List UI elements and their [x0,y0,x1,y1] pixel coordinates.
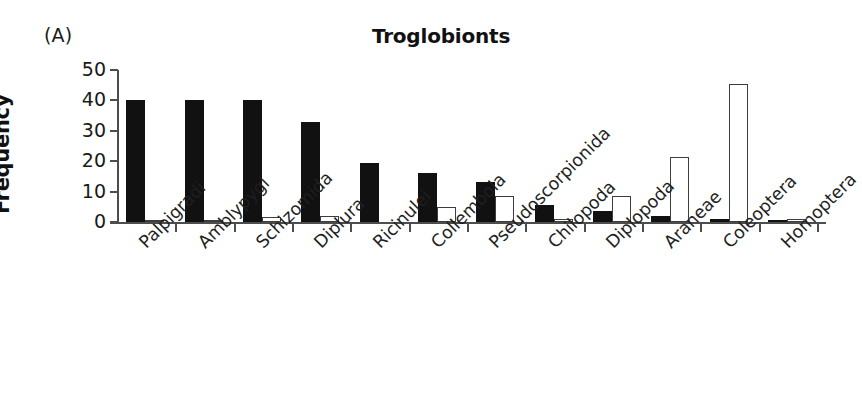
x-tick [234,224,236,232]
bar-group [243,70,281,222]
bar-group [768,70,806,222]
x-tick [759,224,761,232]
bar-filled [126,100,145,222]
bar-filled [418,173,437,222]
x-tick [292,224,294,232]
x-tick [700,224,702,232]
bar-filled [185,100,204,222]
bar-group [418,70,456,222]
bar-group [185,70,223,222]
bar-filled [301,122,320,222]
figure-panel-a: (A) Troglobionts Frequency 01020304050 P… [0,0,862,405]
bar-group [476,70,514,222]
bar-filled [593,211,612,222]
bar-open [495,196,514,222]
bar-filled [360,163,379,222]
bar-group [651,70,689,222]
x-tick [350,224,352,232]
bar-filled [768,220,787,222]
x-tick [409,224,411,232]
bar-open [145,220,164,222]
bar-group [301,70,339,222]
x-tick [642,224,644,232]
bar-filled [243,100,262,222]
bar-open [262,217,281,222]
bar-open [612,196,631,222]
x-tick [817,224,819,232]
bar-filled [476,182,495,222]
y-axis-title: Frequency [0,74,14,234]
y-tick [110,130,118,132]
y-tick [110,191,118,193]
x-tick [175,224,177,232]
y-tick [110,160,118,162]
bar-filled [651,216,670,222]
x-tick [584,224,586,232]
y-tick-label: 30 [60,121,106,140]
bar-group [360,70,398,222]
bar-open [670,157,689,222]
bar-open [787,219,806,222]
x-tick [467,224,469,232]
y-tick-label: 0 [60,212,106,231]
bar-group [710,70,748,222]
x-tick [525,224,527,232]
y-tick-label: 10 [60,182,106,201]
bar-filled [535,205,554,222]
bar-group [593,70,631,222]
bar-open [320,216,339,222]
y-tick [110,69,118,71]
y-tick-label: 40 [60,90,106,109]
plot-area: 01020304050 [118,70,818,222]
bar-group [535,70,573,222]
bar-open [204,220,223,222]
bar-filled [710,219,729,222]
y-axis-line [117,70,119,223]
bar-open [554,219,573,222]
bar-open [437,207,456,222]
chart-title: Troglobionts [0,24,862,48]
y-tick-label: 50 [60,60,106,79]
y-tick [110,99,118,101]
y-tick-label: 20 [60,151,106,170]
y-tick [110,221,118,223]
bar-group [126,70,164,222]
bar-open [729,84,748,222]
